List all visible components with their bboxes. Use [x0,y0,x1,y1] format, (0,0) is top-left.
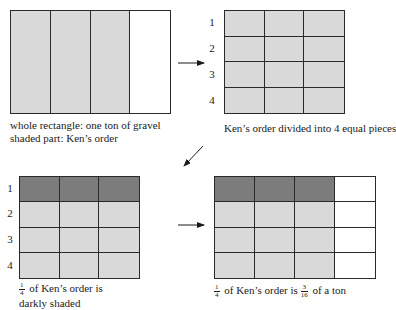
arrow-down-left-icon [184,146,203,166]
